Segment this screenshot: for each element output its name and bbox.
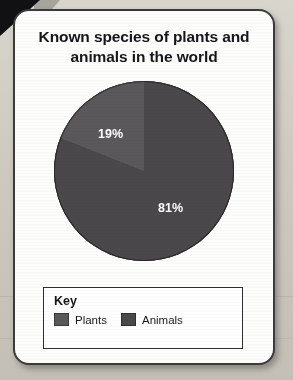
- legend-title: Key: [54, 294, 242, 308]
- pie-slices: [54, 81, 234, 261]
- pie-label-plants: 19%: [98, 127, 123, 141]
- legend-swatch-animals: [121, 313, 136, 326]
- pie-chart: 19% 81%: [54, 81, 234, 261]
- legend-item-animals: Animals: [121, 313, 183, 326]
- legend-label-plants: Plants: [75, 314, 107, 326]
- legend: Key Plants Animals: [43, 287, 243, 349]
- legend-item-plants: Plants: [54, 313, 107, 326]
- legend-label-animals: Animals: [142, 314, 183, 326]
- pie-label-animals: 81%: [158, 201, 183, 215]
- legend-swatch-plants: [54, 313, 69, 326]
- chart-card: Known species of plants and animals in t…: [13, 9, 275, 365]
- legend-items: Plants Animals: [54, 313, 242, 326]
- page-title: Known species of plants and animals in t…: [29, 27, 259, 67]
